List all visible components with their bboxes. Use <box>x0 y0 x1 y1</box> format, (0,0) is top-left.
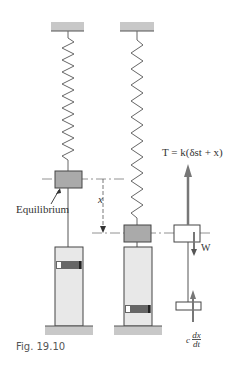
mass-block-left <box>55 171 82 188</box>
spring-left <box>62 31 74 171</box>
displacement-arrow-icon <box>100 226 106 233</box>
spring-mass-damper-diagram <box>0 0 236 366</box>
fbd-damper-plate <box>176 302 201 310</box>
figure-caption: Fig. 19.10 <box>16 341 65 352</box>
damping-denominator: dt <box>192 340 201 348</box>
spring-right <box>131 31 143 225</box>
equilibrium-pointer-icon <box>56 188 61 194</box>
fbd-block <box>174 225 200 242</box>
ground-right <box>114 326 162 335</box>
equilibrium-label: Equilibrium <box>16 203 69 215</box>
damping-arrow-icon <box>190 290 196 299</box>
damping-label: c dx dt <box>186 331 201 348</box>
weight-label: W <box>201 242 210 253</box>
mass-block-right <box>124 225 151 242</box>
weight-arrow-icon <box>191 249 197 256</box>
damper-cylinder-right <box>124 247 152 326</box>
tension-label: T = k(δst + x) <box>162 146 223 158</box>
ceiling-support-left <box>51 22 84 31</box>
damping-coefficient: c <box>186 335 190 345</box>
damper-cylinder-left <box>55 247 83 326</box>
ceiling-support-right <box>120 22 154 31</box>
tension-arrow-icon <box>184 164 192 177</box>
ground-left <box>45 326 93 335</box>
displacement-label: x <box>98 193 103 205</box>
